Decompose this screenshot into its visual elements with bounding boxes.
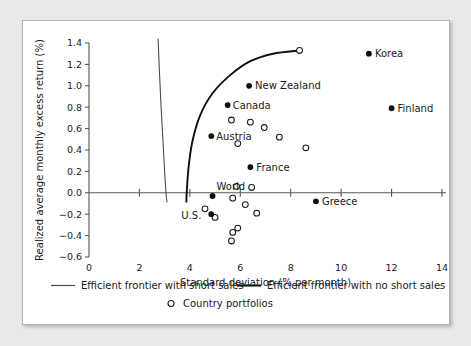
country-portfolio-marker — [261, 125, 267, 131]
point-label-korea: Korea — [375, 48, 403, 59]
labeled-point-marker — [246, 83, 252, 89]
labeled-point-marker — [366, 51, 372, 57]
country-portfolio-marker — [303, 145, 309, 151]
country-portfolio-marker — [230, 229, 236, 235]
y-tick-label: 1.2 — [67, 59, 82, 70]
frontier-short-sales-curve — [158, 39, 167, 203]
labeled-point-marker — [208, 133, 214, 139]
point-label-u-s: U.S. — [181, 210, 201, 221]
y-tick-label: 0.4 — [67, 144, 82, 155]
labeled-point-marker — [313, 198, 319, 204]
labeled-point-marker — [208, 211, 214, 217]
x-tick-label: 6 — [237, 262, 243, 273]
labeled-point-marker — [389, 105, 395, 111]
legend-symbol-country-portfolios — [168, 301, 174, 307]
legend-label-frontier-no-short-sales: Efficient frontier with no short sales — [267, 280, 445, 291]
x-tick-label: 8 — [288, 262, 294, 273]
country-portfolio-marker — [254, 210, 260, 216]
country-portfolio-marker — [229, 238, 235, 244]
labeled-point-marker — [225, 102, 231, 108]
legend-label-country-portfolios: Country portfolios — [183, 298, 273, 309]
country-portfolio-marker — [249, 185, 255, 191]
point-label-finland: Finland — [398, 103, 434, 114]
country-portfolio-marker — [229, 117, 235, 123]
point-label-greece: Greece — [322, 196, 358, 207]
y-axis-title: Realized average monthly excess return (… — [34, 39, 45, 261]
frontier-no-short-sales-curve — [186, 50, 299, 202]
y-tick-label: −0.4 — [59, 230, 82, 241]
y-tick-label: −0.2 — [59, 209, 82, 220]
x-tick-label: 0 — [86, 262, 92, 273]
labeled-point-marker — [210, 193, 216, 199]
point-label-new-zealand: New Zealand — [255, 80, 321, 91]
country-portfolio-marker — [242, 202, 248, 208]
point-label-austria: Austria — [216, 131, 251, 142]
x-tick-label: 12 — [386, 262, 398, 273]
y-tick-label: 1.4 — [67, 37, 82, 48]
x-tick-label: 4 — [187, 262, 193, 273]
legend-label-frontier-short-sales: Efficient frontier with short sales — [81, 280, 244, 291]
x-tick-label: 14 — [436, 262, 448, 273]
country-portfolio-marker — [276, 134, 282, 140]
country-portfolio-marker — [235, 225, 241, 231]
labeled-point-marker — [247, 164, 253, 170]
x-tick-label: 2 — [136, 262, 142, 273]
figure-container: −0.6−0.4−0.20.00.20.40.60.81.01.21.40246… — [0, 0, 471, 346]
country-portfolio-marker — [230, 195, 236, 201]
y-tick-label: 0.0 — [67, 187, 82, 198]
y-tick-label: −0.6 — [59, 251, 82, 262]
point-label-canada: Canada — [233, 100, 271, 111]
point-label-france: France — [256, 162, 289, 173]
x-tick-label: 10 — [335, 262, 347, 273]
y-tick-label: 0.6 — [67, 123, 82, 134]
scatter-plot: −0.6−0.4−0.20.00.20.40.60.81.01.21.40246… — [23, 21, 449, 324]
country-portfolio-marker — [247, 119, 253, 125]
chart-panel: −0.6−0.4−0.20.00.20.40.60.81.01.21.40246… — [22, 20, 450, 325]
y-tick-label: 0.2 — [67, 166, 82, 177]
y-tick-label: 1.0 — [67, 80, 82, 91]
point-label-world: World — [217, 181, 246, 192]
y-tick-label: 0.8 — [67, 102, 82, 113]
country-portfolio-marker — [202, 206, 208, 212]
country-portfolio-marker — [297, 48, 303, 54]
